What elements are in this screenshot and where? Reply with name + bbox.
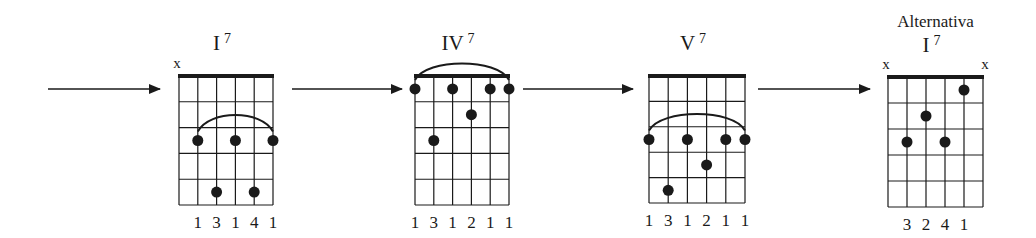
- chord-numeral: IV: [441, 31, 463, 55]
- chord-numeral: I: [923, 33, 930, 57]
- finger-dot: [921, 111, 932, 122]
- finger-dot: [740, 134, 751, 145]
- finger-dot: [268, 135, 279, 146]
- chord-numeral: I: [213, 31, 220, 55]
- chord-V7: V7131211: [644, 31, 751, 230]
- finger-dot: [192, 135, 203, 146]
- chord-name: V7: [680, 31, 706, 55]
- finger-dot: [249, 187, 260, 198]
- finger-dot: [902, 137, 913, 148]
- finger-number: 2: [922, 215, 931, 234]
- finger-dot: [485, 83, 496, 94]
- finger-dot: [447, 83, 458, 94]
- finger-number: 1: [194, 213, 203, 232]
- muted-string-marker: x: [173, 55, 181, 71]
- finger-number: 1: [683, 211, 692, 230]
- nut: [414, 74, 510, 78]
- finger-dot: [959, 85, 970, 96]
- nut: [648, 74, 746, 78]
- finger-dot: [410, 83, 421, 94]
- chord-numeral: V: [680, 31, 695, 55]
- chord-superscript: 7: [468, 31, 475, 46]
- finger-number: 1: [722, 211, 731, 230]
- chord-caption: Alternativa: [897, 12, 974, 31]
- finger-number: 1: [741, 211, 750, 230]
- barre-arc: [649, 114, 745, 131]
- finger-dot: [466, 109, 477, 120]
- finger-dot: [504, 83, 515, 94]
- nut: [178, 74, 274, 78]
- finger-dot: [230, 135, 241, 146]
- finger-number: 1: [448, 213, 457, 232]
- finger-number: 2: [467, 213, 476, 232]
- finger-number: 1: [231, 213, 240, 232]
- finger-number: 3: [903, 215, 912, 234]
- finger-dot: [682, 134, 693, 145]
- finger-number: 3: [664, 211, 673, 230]
- finger-dot: [701, 159, 712, 170]
- finger-dot: [428, 135, 439, 146]
- chord-name: IV7: [441, 31, 474, 55]
- finger-dot: [644, 134, 655, 145]
- nut: [887, 75, 984, 79]
- finger-number: 3: [212, 213, 221, 232]
- finger-dot: [663, 185, 674, 196]
- chord-superscript: 7: [934, 33, 941, 48]
- finger-dot: [211, 187, 222, 198]
- chord-name: I7: [923, 33, 941, 57]
- chord-superscript: 7: [699, 31, 706, 46]
- finger-number: 4: [941, 215, 950, 234]
- finger-number: 1: [411, 213, 420, 232]
- chord-name: I7: [213, 31, 231, 55]
- finger-number: 3: [430, 213, 439, 232]
- chord-alt-I7: AlternativaI7xx3241: [882, 12, 989, 234]
- finger-number: 1: [269, 213, 278, 232]
- chord-I7: I7x13141: [173, 31, 278, 232]
- chord-diagrams: I7x13141IV7131211V7131211AlternativaI7xx…: [173, 12, 989, 234]
- muted-string-marker: x: [981, 56, 989, 72]
- finger-dot: [720, 134, 731, 145]
- chord-IV7: IV7131211: [410, 31, 515, 232]
- finger-number: 1: [960, 215, 969, 234]
- finger-number: 1: [486, 213, 495, 232]
- muted-string-marker: x: [882, 56, 890, 72]
- finger-number: 1: [645, 211, 654, 230]
- finger-dot: [940, 137, 951, 148]
- finger-number: 1: [505, 213, 514, 232]
- finger-number: 2: [702, 211, 711, 230]
- finger-number: 4: [250, 213, 259, 232]
- chord-superscript: 7: [224, 31, 231, 46]
- chord-progression-diagram: I7x13141IV7131211V7131211AlternativaI7xx…: [0, 0, 1036, 238]
